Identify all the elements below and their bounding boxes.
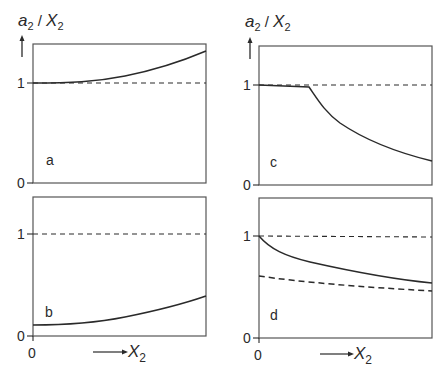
- y-label-x: X: [272, 12, 285, 31]
- y-label-sub2: 2: [57, 20, 63, 32]
- x-tick-label-0: 0: [254, 347, 262, 363]
- activity-curve: [33, 51, 206, 83]
- y-label-x: X: [45, 11, 58, 30]
- svg-text:X2: X2: [127, 342, 146, 365]
- activity-curve: [259, 85, 432, 161]
- panel-label: a: [46, 152, 54, 168]
- panel-b: 1 0 b 0 X2: [17, 197, 206, 365]
- tick-label-1: 1: [17, 226, 25, 242]
- panel-d: 1 0 d 0 X2: [243, 198, 432, 367]
- figure: a2 / X2 a2 / X2 1 0 a 1 0 b 0: [0, 0, 444, 374]
- panel-label: d: [270, 307, 278, 323]
- x-label-var: X: [353, 344, 366, 363]
- svg-text:a2 / X2: a2 / X2: [245, 12, 291, 33]
- y-axis-label-right: a2 / X2: [245, 12, 291, 33]
- tick-label-0: 0: [243, 177, 251, 193]
- y-axis-arrow-right: [248, 37, 253, 59]
- x-label-var: X: [127, 342, 140, 361]
- y-label-a: a: [245, 12, 254, 31]
- panel-label: b: [45, 304, 53, 320]
- svg-text:X2: X2: [353, 344, 372, 367]
- tick-label-0: 0: [17, 328, 25, 344]
- activity-curve: [259, 236, 432, 283]
- tick-label-0: 0: [243, 330, 251, 346]
- y-axis-label-left: a2 / X2: [18, 11, 64, 32]
- x-label-sub: 2: [139, 351, 146, 365]
- tick-label-1: 1: [243, 77, 251, 93]
- tick-label-1: 1: [243, 228, 251, 244]
- y-label-sep: /: [34, 12, 47, 29]
- plot-frame: [259, 198, 432, 338]
- y-label-a: a: [18, 11, 27, 30]
- ideal-dashed-line: [259, 236, 432, 237]
- plot-frame: [33, 197, 206, 336]
- plot-frame: [259, 46, 432, 185]
- x-axis-label: X2: [320, 344, 372, 367]
- x-label-sub: 2: [365, 353, 372, 367]
- y-axis-arrow-left: [20, 35, 25, 57]
- y-label-sep: /: [261, 13, 274, 30]
- svg-text:a2 / X2: a2 / X2: [18, 11, 64, 32]
- tick-label-1: 1: [17, 75, 25, 91]
- plot-frame: [33, 44, 206, 183]
- x-axis-label: X2: [93, 342, 146, 365]
- y-label-sub2: 2: [284, 21, 290, 33]
- tick-label-0: 0: [17, 175, 25, 191]
- panel-a: 1 0 a: [17, 44, 206, 191]
- panel-label: c: [270, 154, 277, 170]
- x-tick-label-0: 0: [28, 345, 36, 361]
- panel-c: 1 0 c: [243, 46, 432, 193]
- limit-dashed-curve: [259, 276, 432, 291]
- activity-curve: [33, 296, 206, 325]
